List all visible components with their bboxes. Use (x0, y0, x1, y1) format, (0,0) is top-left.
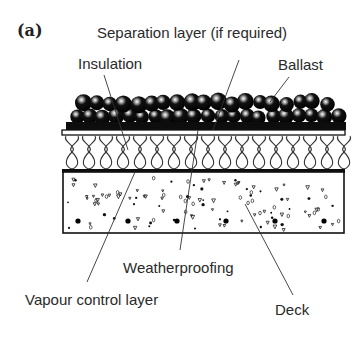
insulation-layer (65, 136, 350, 169)
ballast-base (66, 122, 346, 130)
roof-section-diagram (0, 0, 359, 337)
separation-layer-strip (62, 130, 345, 135)
ballast-layer (70, 93, 346, 127)
